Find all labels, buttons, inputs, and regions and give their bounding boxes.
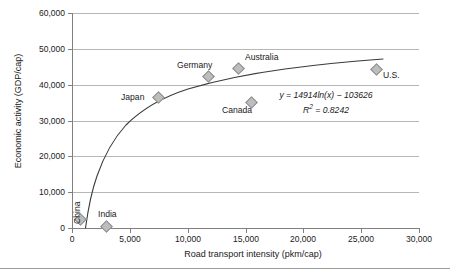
- x-tick-label: 20,000: [273, 234, 333, 244]
- data-point-label-germany: Germany: [177, 60, 212, 70]
- r-squared-value: = 0.8242: [313, 105, 349, 115]
- y-axis-title: Economic activity (GDP/cap): [13, 11, 23, 211]
- plot-area: [72, 13, 419, 228]
- x-tick-label: 25,000: [331, 234, 391, 244]
- gridline-10000: [72, 192, 419, 193]
- x-tick-mark: [303, 229, 304, 233]
- y-tick-label: 20,000: [39, 152, 65, 161]
- x-tick-label: 30,000: [389, 234, 449, 244]
- x-axis-title-wrapper: Road transport intensity (pkm/cap): [0, 249, 450, 259]
- x-tick-mark: [419, 229, 420, 233]
- x-tick-label: 0: [42, 234, 102, 244]
- data-point-label-japan: Japan: [121, 92, 144, 102]
- x-tick-label: 5,000: [100, 234, 160, 244]
- data-point-label-us: U.S.: [383, 70, 400, 80]
- y-tick-mark: [68, 192, 72, 193]
- x-axis-title: Road transport intensity (pkm/cap): [128, 249, 322, 259]
- y-tick-label: 40,000: [39, 81, 65, 90]
- gridline-30000: [72, 121, 419, 122]
- gridline-60000: [72, 13, 419, 14]
- gridline-40000: [72, 85, 419, 86]
- y-axis-line: [72, 13, 73, 229]
- r-squared-line: R2 = 0.8242: [265, 101, 387, 116]
- x-tick-mark: [246, 229, 247, 233]
- chart-figure: 60,000 50,000 40,000 30,000 20,000 10,00…: [0, 0, 450, 276]
- footer-rule: [0, 268, 450, 269]
- y-tick-mark: [68, 85, 72, 86]
- y-tick-label: 30,000: [39, 117, 65, 126]
- y-tick-mark: [68, 121, 72, 122]
- x-tick-label: 10,000: [158, 234, 218, 244]
- y-tick-mark: [68, 13, 72, 14]
- data-point-label-china: China: [72, 202, 82, 224]
- gridline-50000: [72, 49, 419, 50]
- data-point-label-india: India: [98, 209, 117, 219]
- y-tick-mark: [68, 49, 72, 50]
- x-tick-mark: [130, 229, 131, 233]
- data-point-label-australia: Australia: [245, 52, 278, 62]
- y-tick-label: 60,000: [39, 9, 65, 18]
- data-point-label-canada: Canada: [222, 105, 252, 115]
- x-tick-label: 15,000: [216, 234, 276, 244]
- x-tick-mark: [72, 229, 73, 233]
- y-tick-mark: [68, 156, 72, 157]
- equation-line: y = 14914ln(x) − 103626: [265, 89, 387, 101]
- y-tick-label: 10,000: [39, 188, 65, 197]
- x-tick-mark: [188, 229, 189, 233]
- gridline-20000: [72, 156, 419, 157]
- x-tick-mark: [361, 229, 362, 233]
- y-tick-label: 0: [60, 224, 65, 233]
- y-tick-label: 50,000: [39, 45, 65, 54]
- trendline-equation: y = 14914ln(x) − 103626 R2 = 0.8242: [265, 89, 387, 116]
